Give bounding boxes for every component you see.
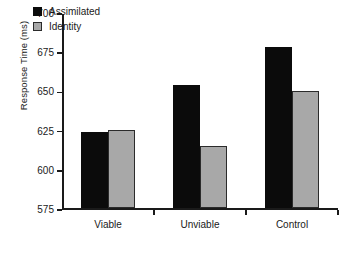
- x-tick-label: Control: [276, 219, 308, 230]
- y-axis-line: [62, 14, 64, 210]
- x-tick: [245, 210, 247, 215]
- bar-viable-assimilated: [81, 132, 108, 209]
- bar-chart: Response Time (ms) 575600625650675700 Vi…: [0, 0, 352, 254]
- y-tick-label: 625: [37, 127, 54, 137]
- y-tick: [57, 209, 62, 211]
- bar-unviable-identity: [200, 146, 227, 209]
- x-tick-label: Viable: [94, 219, 122, 230]
- x-tick: [337, 210, 339, 215]
- plot-area: 575600625650675700 ViableUnviableControl: [62, 14, 338, 210]
- y-tick-label: 650: [37, 87, 54, 97]
- x-axis-line: [62, 208, 338, 210]
- x-tick-label: Unviable: [181, 219, 220, 230]
- legend-item-identity: Identity: [33, 19, 100, 34]
- legend-item-assimilated: Assimilated: [33, 4, 100, 19]
- legend-label: Identity: [49, 21, 81, 32]
- gray-square-icon: [33, 22, 42, 31]
- y-tick: [57, 131, 62, 133]
- bar-unviable-assimilated: [173, 85, 200, 209]
- y-tick: [57, 170, 62, 172]
- legend-label: Assimilated: [49, 6, 100, 17]
- bar-control-identity: [292, 91, 319, 209]
- y-tick-label: 575: [37, 205, 54, 215]
- black-square-icon: [33, 7, 42, 16]
- bar-control-assimilated: [265, 47, 292, 209]
- bar-viable-identity: [108, 130, 135, 208]
- y-tick-label: 600: [37, 166, 54, 176]
- y-tick-label: 675: [37, 48, 54, 58]
- y-tick: [57, 92, 62, 94]
- x-tick: [153, 210, 155, 215]
- y-tick: [57, 52, 62, 54]
- chart-legend: Assimilated Identity: [33, 4, 100, 34]
- y-axis-title: Response Time (ms): [18, 0, 29, 141]
